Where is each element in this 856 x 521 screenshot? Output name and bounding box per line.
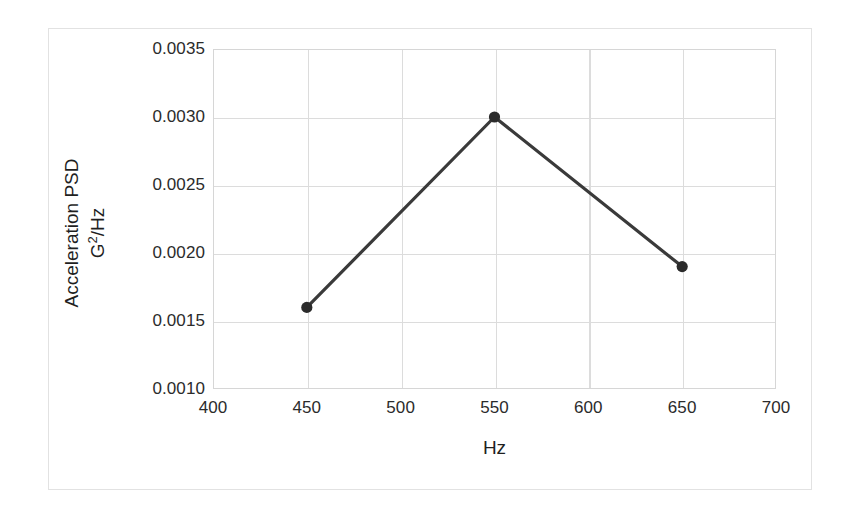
- data-point-marker: [677, 261, 688, 272]
- y-axis-unit-rest: /Hz: [87, 208, 108, 237]
- y-axis-tick-label: 0.0015: [152, 311, 205, 331]
- y-axis-label-unit: G2/Hz: [87, 208, 108, 258]
- y-axis-unit-superscript: 2: [84, 236, 99, 243]
- x-axis-tick-label: 550: [480, 398, 509, 418]
- series-markers: [301, 111, 688, 313]
- x-axis-tick-label: 600: [574, 398, 603, 418]
- y-axis-tick-label: 0.0010: [152, 379, 205, 399]
- y-axis-unit-base: G: [87, 243, 108, 258]
- x-axis-tick-label: 500: [386, 398, 415, 418]
- x-axis-tick-label: 700: [762, 398, 791, 418]
- data-point-marker: [489, 111, 500, 122]
- y-axis-tick-label: 0.0025: [152, 175, 205, 195]
- y-axis-tick-label: 0.0030: [152, 107, 205, 127]
- x-axis-tick-label: 400: [199, 398, 228, 418]
- x-axis-tick-label: 450: [292, 398, 321, 418]
- x-axis-label: Hz: [213, 437, 776, 459]
- data-point-marker: [301, 302, 312, 313]
- y-axis-tick-label: 0.0035: [152, 39, 205, 59]
- data-series-overlay: [213, 49, 776, 389]
- line-chart: 0.00100.00150.00200.00250.00300.0035 400…: [0, 0, 856, 521]
- series-line: [307, 117, 682, 307]
- y-axis-tick-label: 0.0020: [152, 243, 205, 263]
- x-axis-tick-label: 650: [668, 398, 697, 418]
- y-axis-label-line1: Acceleration PSD: [61, 159, 82, 308]
- y-axis-label: Acceleration PSD G2/Hz: [60, 133, 110, 333]
